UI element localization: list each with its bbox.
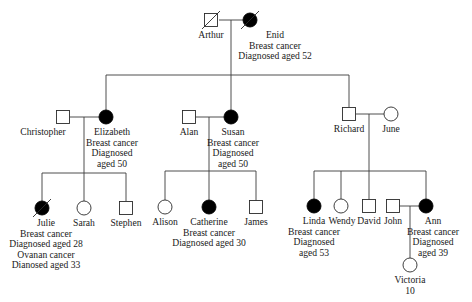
individual-elizabeth: ElizabethBreast cancerDiagnosedaged 50: [86, 110, 139, 169]
individual-detail-label: Dianosed aged 33: [12, 259, 81, 270]
individual-detail-label: Diagnosed: [91, 147, 132, 158]
individual-christopher: Christopher: [20, 111, 69, 138]
individual-name-label: Sarah: [73, 217, 95, 228]
individual-name-label: Catherine: [190, 216, 227, 227]
individual-name-label: Richard: [334, 123, 365, 134]
individual-susan: SusanBreast cancerDiagnosedaged 50: [207, 110, 260, 169]
individual-detail-label: aged 53: [299, 247, 329, 258]
individual-detail-label: Breast cancer: [407, 226, 460, 237]
individual-name-label: Victoria: [395, 274, 427, 285]
individual-detail-label: 10: [405, 285, 415, 296]
male-square-icon: [120, 202, 133, 215]
affected-female-circle-icon: [307, 199, 321, 213]
male-square-icon: [363, 200, 376, 213]
individual-detail-label: Diagnosed: [412, 236, 453, 247]
individual-ann: AnnBreast cancerDiagnosedaged 39: [407, 199, 460, 258]
individual-detail-label: Breast cancer: [207, 137, 260, 148]
affected-female-circle-icon: [419, 199, 433, 213]
individual-alison: Alison: [152, 200, 178, 227]
individual-sarah: Sarah: [73, 201, 95, 228]
individual-name-label: Stephen: [111, 217, 142, 228]
affected-female-circle-icon: [224, 110, 238, 124]
male-square-icon: [250, 201, 263, 214]
individual-june: June: [382, 107, 400, 134]
individual-detail-label: Breast cancer: [183, 227, 236, 238]
individual-detail-label: Diagnosed aged 30: [172, 237, 246, 248]
affected-female-circle-icon: [202, 200, 216, 214]
individual-detail-label: aged 50: [218, 158, 248, 169]
individual-detail-label: aged 39: [418, 247, 448, 258]
individual-richard: Richard: [334, 108, 365, 135]
individual-detail-label: Diagnosed aged 52: [238, 50, 312, 61]
individual-detail-label: Diagnosed: [212, 147, 253, 158]
pedigree-diagram: ArthurEnidBreast cancerDiagnosed aged 52…: [0, 0, 472, 302]
individual-name-label: John: [384, 215, 402, 226]
female-circle-icon: [384, 107, 398, 121]
individual-victoria: Victoria10: [395, 258, 427, 296]
individual-name-label: Alison: [152, 216, 178, 227]
male-square-icon: [57, 111, 70, 124]
individual-name-label: June: [382, 123, 400, 134]
individual-name-label: Julie: [37, 217, 55, 228]
individual-detail-label: aged 50: [97, 158, 127, 169]
individual-detail-label: Diagnosed aged 28: [9, 238, 83, 249]
female-circle-icon: [158, 200, 172, 214]
individual-linda: LindaBreast cancerDiagnosedaged 53: [288, 199, 341, 258]
individual-name-label: Ann: [425, 215, 442, 226]
individual-name-label: Christopher: [20, 126, 66, 137]
male-square-icon: [183, 111, 196, 124]
individual-detail-label: Ovanan cancer: [17, 249, 75, 260]
individual-enid: EnidBreast cancerDiagnosed aged 52: [238, 11, 312, 61]
individual-detail-label: Breast cancer: [20, 228, 73, 239]
pedigree-individuals: ArthurEnidBreast cancerDiagnosed aged 52…: [9, 11, 460, 296]
individual-david: David: [357, 200, 381, 227]
individual-alan: Alan: [180, 111, 199, 138]
individual-name-label: Linda: [303, 215, 326, 226]
individual-james: James: [244, 201, 268, 228]
female-circle-icon: [403, 258, 417, 272]
individual-detail-label: Diagnosed: [293, 236, 334, 247]
individual-julie: JulieBreast cancerDiagnosed aged 28Ovana…: [9, 199, 83, 270]
male-square-icon: [343, 108, 356, 121]
individual-arthur: Arthur: [198, 11, 224, 40]
individual-name-label: Wendy: [329, 215, 356, 226]
individual-detail-label: Breast cancer: [86, 137, 139, 148]
female-circle-icon: [77, 201, 91, 215]
individual-name-label: David: [357, 215, 381, 226]
female-circle-icon: [334, 199, 348, 213]
individual-name-label: Susan: [222, 126, 245, 137]
male-square-icon: [387, 200, 400, 213]
individual-name-label: Enid: [266, 29, 284, 40]
individual-john: John: [384, 200, 402, 227]
individual-catherine: CatherineBreast cancerDiagnosed aged 30: [172, 200, 246, 248]
individual-detail-label: Breast cancer: [249, 40, 302, 51]
individual-stephen: Stephen: [111, 202, 142, 229]
individual-detail-label: Breast cancer: [288, 226, 341, 237]
individual-wendy: Wendy: [329, 199, 356, 226]
affected-female-circle-icon: [99, 110, 113, 124]
individual-name-label: Elizabeth: [94, 126, 130, 137]
individual-name-label: James: [244, 216, 268, 227]
individual-name-label: Alan: [180, 126, 199, 137]
individual-name-label: Arthur: [198, 29, 224, 40]
